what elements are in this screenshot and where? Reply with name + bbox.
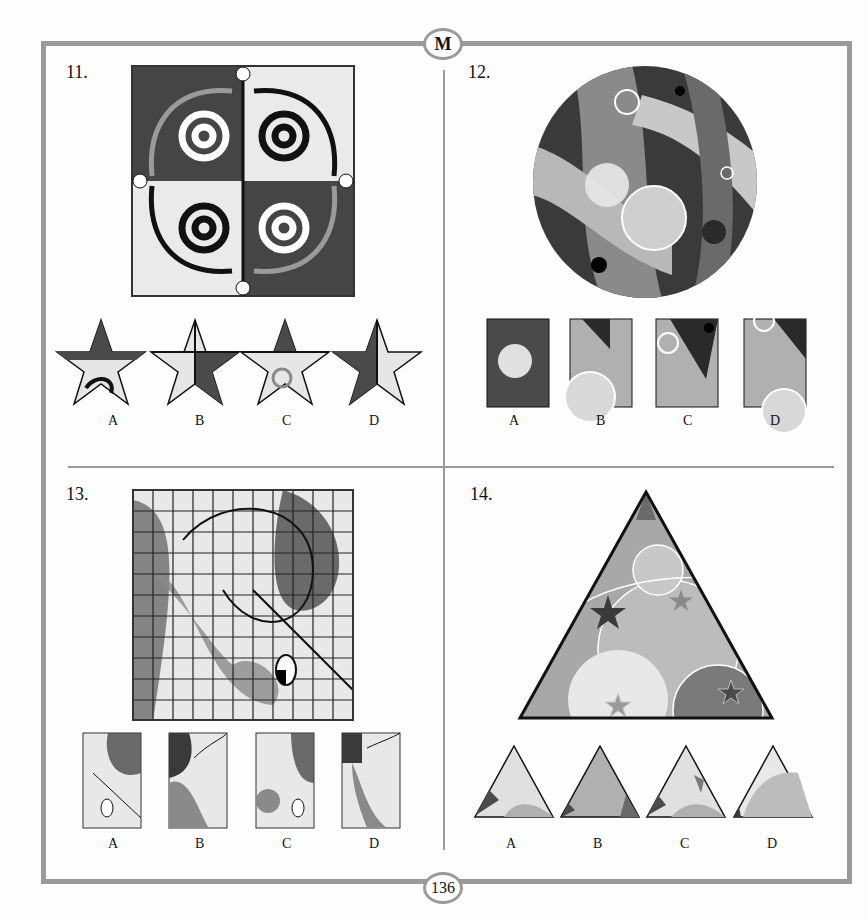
q14-option-c[interactable] xyxy=(646,745,726,819)
q12-option-a[interactable] xyxy=(487,319,549,407)
q12-option-label-a[interactable]: A xyxy=(509,413,519,429)
section-badge: M xyxy=(423,28,463,60)
q11-option-label-d[interactable]: D xyxy=(369,413,379,429)
page-number: 136 xyxy=(423,872,463,904)
q14-option-d[interactable] xyxy=(733,745,813,819)
question-number-13: 13. xyxy=(66,484,89,505)
q14-option-b[interactable] xyxy=(560,745,640,819)
q11-option-star-a[interactable] xyxy=(56,318,146,406)
q13-option-label-c[interactable]: C xyxy=(282,836,291,852)
horizontal-divider xyxy=(68,466,834,468)
q13-option-a[interactable] xyxy=(83,733,141,828)
q11-option-label-c[interactable]: C xyxy=(282,413,291,429)
q11-option-star-b[interactable] xyxy=(150,318,240,406)
q14-option-label-b[interactable]: B xyxy=(593,836,602,852)
q13-option-c[interactable] xyxy=(256,733,314,828)
q14-option-label-a[interactable]: A xyxy=(506,836,516,852)
q12-option-label-c[interactable]: C xyxy=(683,413,692,429)
q13-option-label-d[interactable]: D xyxy=(369,836,379,852)
q14-option-a[interactable] xyxy=(474,745,554,819)
question-number-14: 14. xyxy=(470,484,493,505)
q13-option-b[interactable] xyxy=(169,733,227,828)
q12-option-label-b[interactable]: B xyxy=(596,413,605,429)
q14-option-label-d[interactable]: D xyxy=(767,836,777,852)
q14-figure-triangle xyxy=(518,490,774,720)
q13-option-d[interactable] xyxy=(342,733,400,828)
q12-figure-circle xyxy=(532,65,758,299)
question-number-11: 11. xyxy=(66,62,88,83)
q12-option-d[interactable] xyxy=(744,319,806,407)
q11-option-label-b[interactable]: B xyxy=(195,413,204,429)
q11-option-star-c[interactable] xyxy=(240,318,330,406)
q11-figure-square xyxy=(132,66,354,296)
q12-option-b[interactable] xyxy=(570,319,632,407)
question-number-12: 12. xyxy=(468,62,491,83)
q13-option-label-a[interactable]: A xyxy=(108,836,118,852)
q11-option-star-d[interactable] xyxy=(332,318,422,406)
q14-option-label-c[interactable]: C xyxy=(680,836,689,852)
q13-figure-grid xyxy=(133,490,353,720)
q12-option-c[interactable] xyxy=(656,319,718,407)
q12-option-label-d[interactable]: D xyxy=(770,413,780,429)
q13-option-label-b[interactable]: B xyxy=(195,836,204,852)
q11-option-label-a[interactable]: A xyxy=(108,413,118,429)
vertical-divider xyxy=(443,70,445,850)
